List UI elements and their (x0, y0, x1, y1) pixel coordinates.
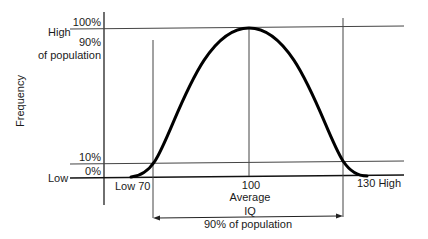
pct-90-label: 90% (79, 36, 101, 48)
x-low-label: Low 70 (115, 180, 150, 192)
y-axis-label: Frequency (14, 75, 26, 127)
range-label: 90% of population (204, 218, 292, 230)
low-label: Low (48, 172, 68, 184)
pct-10-label: 10% (79, 151, 101, 163)
baseline-0-percent (70, 175, 404, 178)
arrow-right-icon (336, 214, 343, 219)
arrow-left-icon (153, 216, 160, 221)
pct-90-sublabel: of population (38, 49, 101, 61)
iq-label: IQ (244, 205, 256, 217)
pct-100-label: 100% (73, 16, 101, 28)
line-100-percent (70, 26, 404, 29)
x-avg-label: Average (230, 191, 271, 203)
x-avg-value: 100 (242, 179, 260, 191)
iq-bell-curve-diagram: Frequency High 100% 90% of population 10… (0, 0, 428, 239)
high-label: High (48, 26, 71, 38)
x-high-label: 130 High (357, 177, 401, 189)
line-10-percent (70, 161, 404, 164)
pct-0-label: 0% (85, 165, 101, 177)
